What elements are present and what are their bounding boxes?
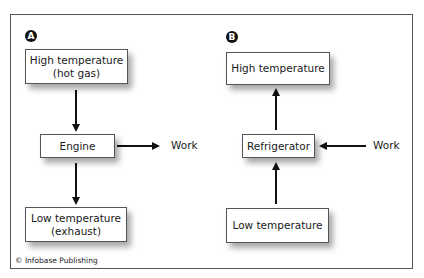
high-temp-line1: High temperature bbox=[30, 54, 123, 67]
low-temperature-exhaust-box: Low temperature (exhaust) bbox=[25, 207, 127, 242]
work-label-a: Work bbox=[171, 139, 198, 151]
panel-b-badge: B bbox=[226, 31, 238, 43]
refrigerator-box: Refrigerator bbox=[242, 134, 315, 158]
low-temp-line2: (exhaust) bbox=[51, 225, 101, 238]
low-temp-line1: Low temperature bbox=[31, 212, 121, 225]
engine-box: Engine bbox=[40, 134, 115, 158]
low-temperature-box: Low temperature bbox=[226, 208, 329, 243]
copyright-credit: © Infobase Publishing bbox=[15, 256, 98, 265]
panel-a-badge: A bbox=[25, 30, 37, 42]
work-label-b: Work bbox=[373, 139, 400, 151]
high-temperature-hot-gas-box: High temperature (hot gas) bbox=[25, 49, 128, 84]
high-temp-line2: (hot gas) bbox=[53, 67, 100, 80]
high-temperature-box: High temperature bbox=[226, 52, 330, 85]
